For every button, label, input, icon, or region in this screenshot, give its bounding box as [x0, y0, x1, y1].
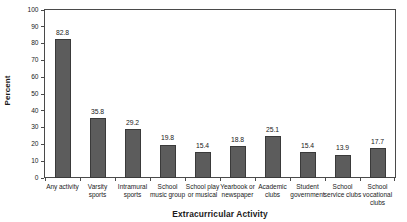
bar[interactable]: [265, 136, 281, 178]
bar-chart: Percent 0102030405060708090100 82.835.82…: [0, 0, 407, 222]
x-axis-ticks: [45, 178, 395, 182]
x-axis-tick-mark: [115, 178, 116, 181]
x-axis-tick-mark: [80, 178, 81, 181]
bars-layer: 82.835.829.219.815.418.825.115.413.917.7: [45, 10, 395, 178]
x-axis-tick-mark: [220, 178, 221, 181]
bar[interactable]: [370, 148, 386, 178]
bar-group: 13.9: [325, 10, 360, 178]
y-axis-tick-label: 10: [31, 158, 41, 165]
x-axis-tick-mark: [290, 178, 291, 181]
y-axis-tick-label: 70: [31, 57, 41, 64]
y-axis-ticks: 0102030405060708090100: [0, 0, 44, 187]
x-axis-tick-mark: [325, 178, 326, 181]
bar-group: 25.1: [255, 10, 290, 178]
bar-group: 82.8: [45, 10, 80, 178]
bar[interactable]: [160, 145, 176, 178]
x-axis-tick-mark: [360, 178, 361, 181]
bar-group: 15.4: [290, 10, 325, 178]
y-axis-tick-label: 100: [27, 7, 41, 14]
bar-value-label: 82.8: [56, 30, 69, 37]
bar-value-label: 15.4: [301, 143, 314, 150]
x-axis-title: Extracurricular Activity: [45, 209, 395, 219]
bar-value-label: 29.2: [126, 120, 139, 127]
bar[interactable]: [90, 118, 106, 178]
bar-group: 35.8: [80, 10, 115, 178]
y-axis-tick-label: 50: [31, 91, 41, 98]
bar-value-label: 13.9: [336, 145, 349, 152]
bar-group: 19.8: [150, 10, 185, 178]
bar-value-label: 17.7: [371, 139, 384, 146]
bar-value-label: 18.8: [231, 137, 244, 144]
x-axis-category-label: Schoolvocationalclubs: [357, 183, 398, 207]
x-axis-tick-mark: [394, 178, 395, 181]
bar[interactable]: [300, 152, 316, 178]
bar[interactable]: [230, 146, 246, 178]
bar-value-label: 35.8: [91, 109, 104, 116]
bar-group: 17.7: [360, 10, 395, 178]
x-axis-tick-mark: [150, 178, 151, 181]
bar-value-label: 19.8: [161, 135, 174, 142]
bar-value-label: 25.1: [266, 127, 279, 134]
x-axis-tick-mark: [45, 178, 46, 181]
bar-group: 18.8: [220, 10, 255, 178]
bar[interactable]: [125, 129, 141, 178]
bar[interactable]: [55, 39, 71, 178]
y-axis-tick-label: 40: [31, 108, 41, 115]
y-axis-tick-label: 60: [31, 74, 41, 81]
bar-group: 29.2: [115, 10, 150, 178]
y-axis-tick-label: 80: [31, 40, 41, 47]
x-axis-tick-mark: [255, 178, 256, 181]
y-axis-tick-label: 20: [31, 141, 41, 148]
bar-group: 15.4: [185, 10, 220, 178]
bar[interactable]: [335, 155, 351, 178]
bar-value-label: 15.4: [196, 143, 209, 150]
y-axis-tick-label: 30: [31, 124, 41, 131]
bar[interactable]: [195, 152, 211, 178]
x-axis-tick-mark: [185, 178, 186, 181]
y-axis-tick-label: 90: [31, 24, 41, 31]
